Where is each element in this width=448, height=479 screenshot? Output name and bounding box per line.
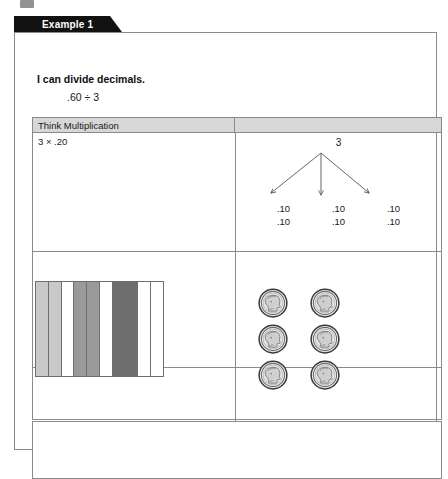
tree-leaf-3-2: .10 — [381, 216, 407, 227]
table-header-right — [235, 118, 441, 132]
grid-column-7 — [113, 282, 126, 376]
tree-diagram: 3 .10 .10 .10 .10 — [235, 133, 442, 251]
grid-column-10 — [151, 282, 163, 376]
coin-cell — [299, 285, 351, 321]
coin-cell — [247, 285, 299, 321]
division-expression: .60 ÷ 3 — [67, 91, 99, 103]
grid-column-3 — [62, 282, 75, 376]
coin-cell — [299, 321, 351, 357]
table-header-row: Think Multiplication — [33, 118, 441, 133]
coin-group — [247, 285, 351, 395]
tree-leaf-1-1: .10 — [271, 203, 297, 214]
grid-column-2 — [49, 282, 62, 376]
dime-coin-icon — [258, 360, 288, 390]
dime-coin-icon — [310, 360, 340, 390]
dime-coin-icon — [310, 324, 340, 354]
coin-cell — [299, 357, 351, 393]
table-header-think-multiplication: Think Multiplication — [33, 118, 235, 132]
tree-leaf-2-2: .10 — [326, 216, 352, 227]
multiplication-expression: 3 × .20 — [38, 136, 67, 147]
grid-column-4 — [74, 282, 87, 376]
coin-cell — [247, 357, 299, 393]
grid-column-9 — [138, 282, 151, 376]
tree-branches-svg — [235, 149, 442, 211]
tree-leaf-3-1: .10 — [381, 203, 407, 214]
dime-coin-icon — [310, 288, 340, 318]
tree-leaf-row-1: .10 .10 .10 — [235, 203, 442, 214]
dime-coin-icon — [258, 324, 288, 354]
example-tab: Example 1 — [14, 16, 122, 32]
tree-leaf-1-2: .10 — [271, 216, 297, 227]
table-row-divider-1 — [33, 251, 441, 252]
dime-coin-icon — [258, 288, 288, 318]
example-tab-label: Example 1 — [42, 19, 93, 30]
grid-column-1 — [36, 282, 49, 376]
tree-root-value: 3 — [235, 137, 442, 148]
grid-column-5 — [87, 282, 100, 376]
table-header-label-left: Think Multiplication — [38, 120, 119, 131]
tree-leaf-2-1: .10 — [326, 203, 352, 214]
page-top-artifact — [20, 0, 34, 8]
content-box: I can divide decimals. .60 ÷ 3 Think Mul… — [14, 32, 437, 450]
objective-text: I can divide decimals. — [37, 73, 145, 85]
coin-cell — [247, 321, 299, 357]
bottom-empty-section — [32, 421, 442, 479]
grid-column-8 — [126, 282, 139, 376]
decimal-grid-model — [35, 281, 164, 377]
grid-column-6 — [100, 282, 113, 376]
tree-leaf-row-2: .10 .10 .10 — [235, 216, 442, 227]
